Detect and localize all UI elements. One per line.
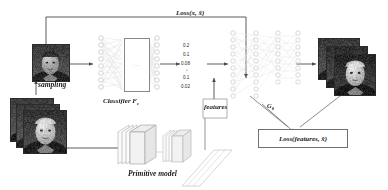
probability-ellipsis: • xyxy=(186,69,188,74)
probability-value-0: 0.2 xyxy=(183,44,189,49)
primitive-block-group-1 xyxy=(118,125,156,164)
probability-value-4: 0.02 xyxy=(181,85,190,90)
probability-value-2: 0.08 xyxy=(181,62,190,67)
output-photo-front xyxy=(334,54,376,96)
loss-features-box: Loss(features, x̂) xyxy=(258,129,348,148)
classifier-label: Classifier Fc xyxy=(103,98,139,107)
probability-value-3: 0.1 xyxy=(183,76,189,81)
classifier-core-box: ··· xyxy=(124,38,150,92)
classifier-label-sub: c xyxy=(137,101,139,106)
classifier-label-text: Classifier F xyxy=(103,97,137,105)
training-photo-front xyxy=(23,110,67,154)
primitive-block-group-2 xyxy=(163,130,191,162)
classifier-box-glyph: ··· xyxy=(133,62,141,68)
primitive-model-label: Primitive model xyxy=(128,170,177,178)
figure-canvas: ··· 0.2 0.1 0.08 0.1 0.02 • xyxy=(0,0,388,190)
generator-label-sub: θ xyxy=(272,106,274,111)
loss-features-label: Loss(features, x̂) xyxy=(279,135,327,143)
source-face-thumbnail xyxy=(32,44,70,82)
sampling-label: sampling xyxy=(38,81,66,89)
generator-label: Gθ xyxy=(267,103,274,112)
probability-value-1: 0.1 xyxy=(183,53,189,58)
features-label: features xyxy=(204,104,227,111)
loss-top-label: Loss(x, x̂) xyxy=(176,10,204,17)
primitive-model-blocks xyxy=(0,0,388,190)
